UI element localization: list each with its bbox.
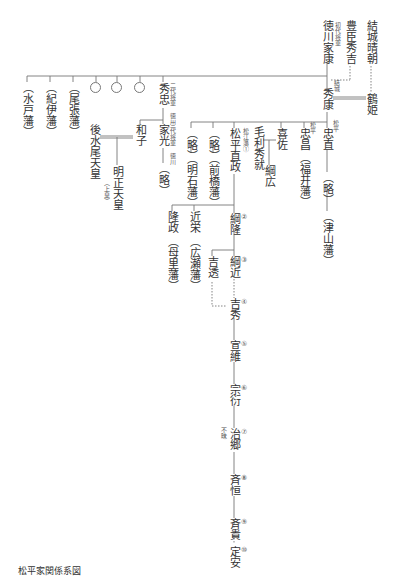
- person-owari: （尾張藩）: [67, 82, 79, 137]
- diagram-caption: 松平家関係系図: [18, 564, 81, 577]
- person-yoshihide: 吉秀: [228, 298, 240, 320]
- person-iemitsu-child: （略）: [157, 163, 169, 196]
- person-chikayoshi: 近栄: [188, 211, 200, 233]
- note-iemitsu: 三代将軍 徳川: [169, 122, 176, 150]
- person-tadamasa: 忠昌: [298, 128, 310, 150]
- person-tsunahiro: 綱広: [263, 165, 275, 187]
- domain-bokuro: （母里藩）: [166, 236, 178, 291]
- note-naomasa: 松江藩①: [242, 128, 249, 152]
- domain-tsuyama: （津山藩）: [321, 211, 333, 266]
- unnamed-child: [90, 82, 101, 93]
- person-tadanao-child: （略）: [321, 172, 333, 205]
- domain-maebashi: （前橋藩）: [207, 153, 219, 208]
- note-ieyasu: 初代将軍: [334, 22, 341, 46]
- person-tsunachika: 綱近: [228, 256, 240, 278]
- note-meisho: （上皇）: [103, 180, 110, 204]
- person-yoshitoo: 吉透: [206, 256, 218, 278]
- gen-number-2: ②: [241, 213, 247, 221]
- person-naomasa: 松平直政: [228, 128, 240, 172]
- gen-number-3: ③: [241, 256, 247, 264]
- note-hidetada: 二代将軍 徳川: [169, 82, 176, 110]
- person-harusato: 治郷: [228, 428, 240, 450]
- gen-number-8: ⑧: [241, 474, 247, 482]
- person-yuki-harutomo: 結城晴朝: [365, 20, 377, 64]
- gen-number-7: ⑦: [241, 428, 247, 436]
- person-naritsune: 斉恒: [228, 474, 240, 496]
- person-kazuko: 和子: [134, 124, 146, 146]
- note-hideyasu: 結城: [333, 80, 340, 92]
- person-toyotomi-hideyoshi: 豊臣秀吉: [344, 20, 356, 64]
- person-sadayasu: 定安: [228, 546, 240, 568]
- person-mori-hidenari: 毛利秀就: [252, 126, 264, 170]
- person-gomizunoo: 後水尾天皇: [88, 124, 100, 179]
- note-harusato: 不昧: [220, 427, 227, 439]
- person-iemitsu: 家光: [157, 124, 169, 146]
- unnamed-child: [111, 82, 122, 93]
- gen-number-5: ⑤: [241, 340, 247, 348]
- gen-number-4: ④: [241, 298, 247, 306]
- person-tadanao: 忠直: [321, 128, 333, 150]
- person-nobuzumi: 宣維: [228, 340, 240, 362]
- person-mito: （水戸藩）: [21, 82, 33, 137]
- domain-fukui: （福井藩）: [298, 152, 310, 207]
- person-tsunataka: 綱隆: [228, 213, 240, 235]
- gen-number-10: ⑩: [241, 546, 247, 554]
- person-takamasa: 隆政: [166, 211, 178, 233]
- person-kii: （紀伊藩）: [44, 82, 56, 137]
- domain-hirose: （広瀬藩）: [188, 236, 200, 291]
- person-kisa: 喜佐: [275, 128, 287, 150]
- person-tokugawa-ieyasu: 徳川家康: [321, 20, 333, 64]
- gen-number-9: ⑨: [241, 518, 247, 526]
- gen-number-6: ⑥: [241, 384, 247, 392]
- unnamed-child: [134, 82, 145, 93]
- person-hideyasu: 秀康: [321, 88, 333, 110]
- person-naritaka: 斉貴: [228, 518, 240, 540]
- domain-akashi: （明石藩）: [185, 153, 197, 208]
- person-tsuruhime: 鶴姫: [365, 93, 377, 115]
- person-meisho: 明正天皇: [111, 166, 123, 210]
- person-munenobu: 宗衍: [228, 384, 240, 406]
- person-hidetada: 秀忠: [157, 83, 169, 105]
